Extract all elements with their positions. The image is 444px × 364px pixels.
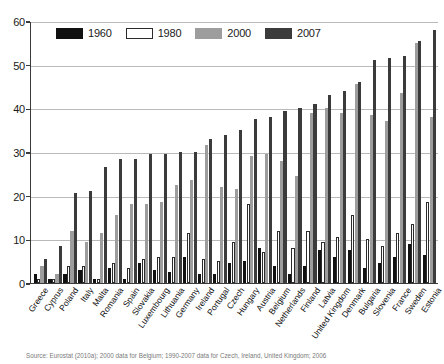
bar-group [198,22,213,283]
legend-swatch-2007 [265,28,292,39]
bar-2007 [388,58,391,283]
bar-group [273,22,288,283]
bar-group [258,22,273,283]
bar-2007 [164,154,167,283]
legend-item-1960: 1960 [56,27,112,39]
bar-2007 [343,91,346,283]
bar-group [93,22,108,283]
bar-groups [31,22,438,283]
legend-label-1980: 1980 [158,27,182,39]
bar-2007 [328,95,331,283]
legend-swatch-1980 [126,28,153,39]
bar-group [392,22,407,283]
y-tick-label: 10 [0,234,25,246]
bar-group [332,22,347,283]
bar-2007 [89,191,92,283]
bar-2007 [224,135,227,283]
bar-group [78,22,93,283]
y-tick-label: 60 [0,16,25,28]
bar-group [63,22,78,283]
bar-group [317,22,332,283]
legend-label-1960: 1960 [88,27,112,39]
y-tick-label: 40 [0,103,25,115]
legend-label-2007: 2007 [297,27,321,39]
bar-2007 [59,246,62,283]
bar-group [168,22,183,283]
bar-group [362,22,377,283]
bar-group [228,22,243,283]
bar-2007 [313,104,316,283]
bar-2007 [134,159,137,283]
legend-item-2007: 2007 [265,27,321,39]
bar-group [377,22,392,283]
source-note: Source: Eurostat (2010a); 2000 data for … [26,352,444,360]
legend-item-2000: 2000 [195,27,251,39]
bar-2007 [119,159,122,283]
bar-group [183,22,198,283]
y-tick-label: 20 [0,191,25,203]
bar-2007 [44,259,47,283]
bar-2007 [104,167,107,283]
bar-group [138,22,153,283]
plot-area [30,22,438,284]
bar-group [302,22,317,283]
bar-2007 [283,111,286,283]
bar-group [213,22,228,283]
y-tick-label: 50 [0,60,25,72]
x-axis-labels: GreeceCyprusPolandItalyMaltaRomaniaSpain… [30,284,438,360]
bar-2007 [418,41,421,283]
legend-label-2000: 2000 [227,27,251,39]
bar-group [153,22,168,283]
bar-2007 [358,82,361,283]
bar-2007 [194,152,197,283]
y-tick-label: 0 [0,278,25,290]
bar-2007 [149,154,152,283]
bar-2007 [403,56,406,283]
bar-group [123,22,138,283]
bar-group [407,22,422,283]
legend-swatch-2000 [195,28,222,39]
bar-2007 [269,117,272,283]
bar-group [347,22,362,283]
bar-group [108,22,123,283]
bar-2007 [74,193,77,283]
bar-2007 [298,108,301,283]
bar-group [287,22,302,283]
bar-2007 [209,139,212,283]
bar-2007 [239,130,242,283]
bar-group [33,22,48,283]
legend-item-1980: 1980 [126,27,182,39]
bar-chart: 0102030405060 GreeceCyprusPolandItalyMal… [0,0,444,364]
bar-group [422,22,437,283]
bar-2007 [373,60,376,283]
bar-2007 [254,119,257,283]
bar-2007 [179,152,182,283]
y-tick-label: 30 [0,147,25,159]
bar-2007 [433,30,436,283]
legend-swatch-1960 [56,28,83,39]
legend: 1960198020002007 [56,27,335,39]
bar-group [243,22,258,283]
bar-group [48,22,63,283]
